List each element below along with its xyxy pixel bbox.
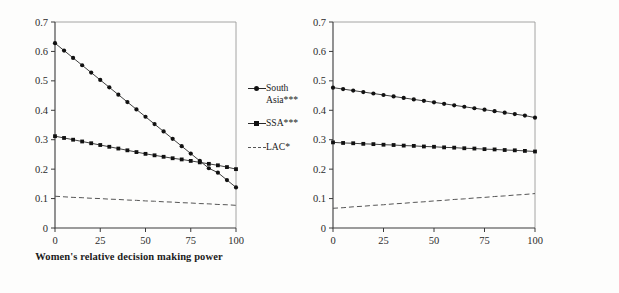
data-point-marker <box>513 148 517 152</box>
data-point-marker <box>62 48 66 52</box>
data-point-marker <box>462 105 466 109</box>
data-point-marker <box>341 141 345 145</box>
data-point-marker <box>144 152 148 156</box>
data-point-marker <box>153 153 157 157</box>
data-point-marker <box>372 142 376 146</box>
legend-dashed-line-icon <box>248 142 266 153</box>
data-point-marker <box>462 146 466 150</box>
data-point-marker <box>533 150 537 154</box>
data-point-marker <box>107 85 111 89</box>
plot-frame <box>333 22 535 228</box>
data-point-marker <box>98 143 102 147</box>
series-line-lac <box>55 196 236 205</box>
data-point-marker <box>382 143 386 147</box>
x-axis-tick-label: 75 <box>186 235 197 245</box>
data-point-marker <box>216 171 220 175</box>
data-point-marker <box>381 93 385 97</box>
legend-item-label: LAC* <box>266 141 290 153</box>
data-point-marker <box>341 87 345 91</box>
x-axis-tick-label: 100 <box>527 235 543 245</box>
x-axis-tick-label: 50 <box>429 235 440 245</box>
legend-line-marker-icon <box>248 83 266 94</box>
data-point-marker <box>432 145 436 149</box>
dashed-line-icon <box>248 147 266 148</box>
data-point-marker <box>513 112 517 116</box>
data-point-marker <box>135 150 139 154</box>
data-point-marker <box>452 146 456 150</box>
data-point-marker <box>452 103 456 107</box>
legend-item[interactable]: SSA*** <box>248 117 310 129</box>
data-point-marker <box>80 140 84 144</box>
data-point-marker <box>207 166 211 170</box>
data-point-marker <box>171 137 175 141</box>
y-axis-tick-label: 0.6 <box>313 46 326 57</box>
data-point-marker <box>523 149 527 153</box>
chart-svg-right: 00.10.20.30.40.50.60.70255075100 <box>310 0 619 245</box>
y-axis-tick-label: 0 <box>43 223 48 234</box>
legend-item-label: SSA*** <box>266 117 298 129</box>
data-point-marker <box>134 107 138 111</box>
data-point-marker <box>483 147 487 151</box>
data-point-marker <box>371 91 375 95</box>
legend-item[interactable]: South Asia*** <box>248 82 310 105</box>
x-axis-tick-label: 25 <box>95 235 106 245</box>
data-point-marker <box>162 129 166 133</box>
data-point-marker <box>472 106 476 110</box>
legend-line-marker-icon <box>248 118 266 129</box>
circle-marker-icon <box>254 86 259 91</box>
y-axis-tick-label: 0 <box>321 223 326 234</box>
y-axis-tick-label: 0.2 <box>313 164 326 175</box>
y-axis-tick-label: 0.2 <box>35 164 48 175</box>
y-axis-tick-label: 0.5 <box>313 75 326 86</box>
data-point-marker <box>392 143 396 147</box>
data-point-marker <box>180 144 184 148</box>
data-point-marker <box>98 78 102 82</box>
x-axis-tick-label: 0 <box>52 235 57 245</box>
data-point-marker <box>331 140 335 144</box>
data-point-marker <box>143 115 147 119</box>
x-axis-tick-label: 100 <box>228 235 244 245</box>
data-point-marker <box>53 134 57 138</box>
data-point-marker <box>533 116 537 120</box>
x-axis-tick-label: 75 <box>479 235 490 245</box>
data-point-marker <box>189 159 193 163</box>
data-point-marker <box>361 90 365 94</box>
series-line-lac <box>333 194 535 209</box>
data-point-marker <box>71 138 75 142</box>
data-point-marker <box>126 148 130 152</box>
data-point-marker <box>503 148 507 152</box>
data-point-marker <box>171 156 175 160</box>
legend-item-label: South Asia*** <box>266 82 298 105</box>
y-axis-tick-label: 0.1 <box>313 193 326 204</box>
y-axis-tick-label: 0.5 <box>35 75 48 86</box>
x-axis-tick-label: 25 <box>378 235 389 245</box>
data-point-marker <box>162 155 166 159</box>
data-point-marker <box>234 185 238 189</box>
data-point-marker <box>432 100 436 104</box>
y-axis-tick-label: 0.4 <box>313 105 327 116</box>
x-axis-tick-label: 0 <box>330 235 335 245</box>
chart-axes <box>55 22 236 228</box>
y-axis-tick-label: 0.4 <box>35 105 49 116</box>
data-point-marker <box>198 160 202 164</box>
data-point-marker <box>116 147 120 151</box>
data-point-marker <box>482 108 486 112</box>
y-axis-tick-label: 0.7 <box>313 17 326 28</box>
data-point-marker <box>523 113 527 117</box>
data-point-marker <box>207 162 211 166</box>
data-point-marker <box>189 151 193 155</box>
data-point-marker <box>180 158 184 162</box>
data-point-marker <box>53 41 57 45</box>
data-point-marker <box>473 147 477 151</box>
data-point-marker <box>412 97 416 101</box>
x-axis-title-left: Women's relative decision making power <box>14 250 244 263</box>
y-axis-tick-label: 0.6 <box>35 46 48 57</box>
legend-item[interactable]: LAC* <box>248 141 310 153</box>
data-point-marker <box>62 136 66 140</box>
data-point-marker <box>402 96 406 100</box>
plot-frame <box>55 22 236 228</box>
chart-axes <box>333 22 535 228</box>
data-point-marker <box>402 144 406 148</box>
y-axis-tick-label: 0.1 <box>35 193 48 204</box>
data-point-marker <box>493 109 497 113</box>
